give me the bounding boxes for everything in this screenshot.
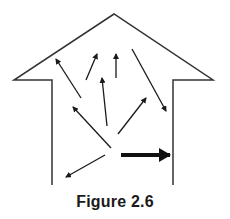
arrow-4 bbox=[132, 49, 166, 111]
figure-caption: Figure 2.6 bbox=[0, 193, 230, 211]
thin-arrows-group bbox=[56, 49, 166, 177]
arrow-5 bbox=[102, 78, 107, 126]
arrow-8 bbox=[66, 155, 105, 177]
arrow-1 bbox=[56, 59, 81, 98]
arrow-2 bbox=[86, 54, 97, 80]
house-outline bbox=[14, 14, 213, 185]
arrow-6 bbox=[118, 98, 146, 134]
house-diagram bbox=[0, 0, 230, 219]
